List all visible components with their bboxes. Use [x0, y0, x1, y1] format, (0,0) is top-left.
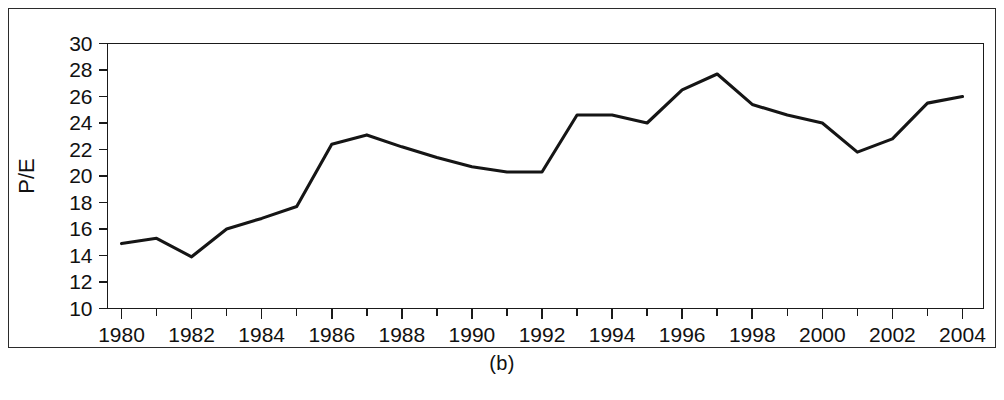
y-axis-title: P/E	[14, 158, 39, 193]
y-tick-label: 30	[69, 32, 92, 55]
y-tick-label: 16	[69, 217, 92, 240]
x-tick-label: 1988	[378, 323, 425, 346]
x-tick-label: 1984	[238, 323, 285, 346]
x-tick-label: 1980	[98, 323, 145, 346]
x-tick-label: 1998	[729, 323, 776, 346]
y-tick-label: 26	[69, 85, 92, 108]
y-tick-label: 18	[69, 191, 92, 214]
plot-frame	[108, 44, 984, 309]
figure-caption: (b)	[0, 352, 1004, 375]
y-tick-label: 14	[69, 244, 93, 267]
figure-container: 1012141618202224262830198019821984198619…	[0, 0, 1004, 400]
x-tick-label: 1986	[308, 323, 355, 346]
y-tick-label: 24	[69, 111, 93, 134]
x-tick-label: 2002	[869, 323, 916, 346]
x-tick-label: 1996	[659, 323, 706, 346]
x-tick-label: 1982	[168, 323, 215, 346]
x-tick-label: 1992	[519, 323, 566, 346]
series-line-p-e	[122, 74, 963, 257]
x-tick-label: 2004	[939, 323, 986, 346]
y-tick-label: 28	[69, 58, 92, 81]
x-tick-label: 1994	[589, 323, 636, 346]
y-tick-label: 12	[69, 270, 92, 293]
x-tick-label: 2000	[799, 323, 846, 346]
y-tick-label: 20	[69, 164, 92, 187]
y-tick-label: 10	[69, 297, 92, 320]
x-tick-label: 1990	[449, 323, 496, 346]
plot-area: 1012141618202224262830198019821984198619…	[14, 32, 986, 346]
pe-line-chart: 1012141618202224262830198019821984198619…	[0, 0, 1004, 360]
y-tick-label: 22	[69, 138, 92, 161]
